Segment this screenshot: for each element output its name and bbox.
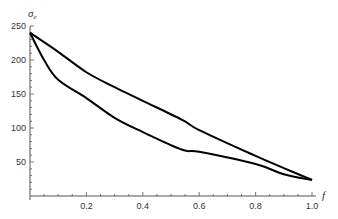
y-axis-label: σe <box>28 7 37 21</box>
x-tick-label: 1.0 <box>306 201 319 211</box>
series-lines <box>30 33 312 180</box>
x-tick-label: 0.4 <box>137 201 150 211</box>
x-tick-label: 0.8 <box>249 201 262 211</box>
axes: 0.20.40.60.81.050100150200250 <box>11 21 318 211</box>
y-tick-label: 250 <box>11 21 26 31</box>
y-tick-label: 50 <box>16 157 26 167</box>
chart: 0.20.40.60.81.050100150200250 σe f <box>0 0 338 219</box>
series-line-lower <box>30 33 312 180</box>
x-tick-label: 0.2 <box>80 201 93 211</box>
x-tick-label: 0.6 <box>193 201 206 211</box>
y-tick-label: 150 <box>11 89 26 99</box>
y-tick-label: 200 <box>11 55 26 65</box>
y-tick-label: 100 <box>11 123 26 133</box>
x-axis-label: f <box>322 189 327 201</box>
series-line-upper <box>30 33 312 180</box>
